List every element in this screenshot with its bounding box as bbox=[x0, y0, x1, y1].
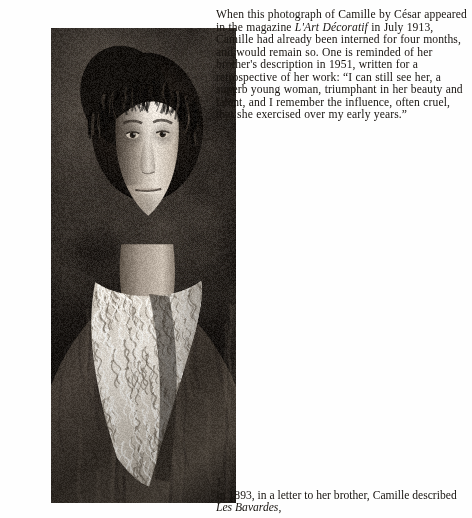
figure-number: 1 bbox=[216, 476, 470, 489]
portrait-photograph bbox=[51, 28, 236, 503]
figure-caption: In 1893, in a letter to her brother, Cam… bbox=[216, 490, 470, 515]
figure-caption-block: 1 In 1893, in a letter to her brother, C… bbox=[216, 476, 470, 515]
page-root: When this photograph of Camille by César… bbox=[0, 0, 472, 518]
text-column: When this photograph of Camille by César… bbox=[216, 0, 472, 518]
body-paragraph: When this photograph of Camille by César… bbox=[216, 9, 470, 122]
portrait-photograph-image bbox=[51, 28, 236, 503]
